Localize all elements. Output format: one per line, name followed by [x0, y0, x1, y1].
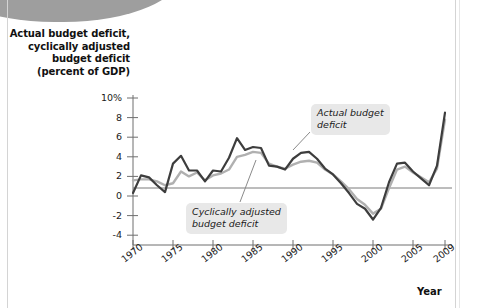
x-axis-title: Year	[417, 286, 442, 297]
y-axis-tick-label: 4	[88, 151, 122, 162]
y-axis-tick-label: 6	[88, 131, 122, 142]
annotation-actual-budget-deficit: Actual budget deficit	[311, 104, 390, 135]
y-axis-tick-label: 0	[88, 190, 122, 201]
y-axis-tick-label: 8	[88, 112, 122, 123]
y-axis-tick-label: 10%	[88, 92, 122, 103]
y-axis-tick-label: -2	[88, 210, 122, 221]
data-series-group	[133, 113, 445, 220]
y-axis-tick-label: -4	[88, 229, 122, 240]
leader-line-actual	[293, 132, 310, 150]
leader-line-cyclical	[240, 160, 256, 202]
chart-page: Actual budget deficit, cyclically adjust…	[0, 0, 477, 308]
annotation-cyclically-adjusted-deficit: Cyclically adjusted budget deficit	[186, 203, 287, 234]
y-axis-tick-label: 2	[88, 170, 122, 181]
series-cyclically-adjusted-deficit	[133, 120, 445, 214]
